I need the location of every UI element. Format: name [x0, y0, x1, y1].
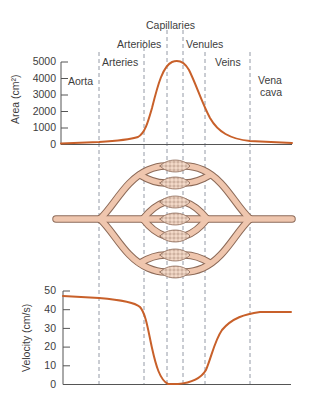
area-tick-5000: 5000 — [18, 56, 56, 67]
area-tick-3000: 3000 — [18, 89, 56, 100]
region-label-arteries: Arteries — [102, 57, 138, 69]
area-axis-label: Area (cm²) — [9, 74, 21, 124]
velocity-tick-50: 50 — [18, 285, 56, 296]
capillary-bed — [160, 160, 190, 172]
capillary-bed — [160, 266, 190, 278]
capillary-bed — [160, 249, 190, 261]
region-label-venules: Venules — [186, 39, 223, 51]
region-label-vena-line2: cava — [260, 87, 282, 99]
area-tick-2000: 2000 — [18, 106, 56, 117]
region-label-arterioles: Arterioles — [117, 39, 161, 51]
area-tick-1000: 1000 — [18, 122, 56, 133]
capillary-beds — [160, 160, 190, 278]
velocity-tick-0: 0 — [18, 379, 56, 390]
region-label-veins: Veins — [215, 57, 241, 69]
velocity-chart-axes — [63, 291, 291, 385]
vessel-diagram — [56, 160, 292, 278]
velocity-axis-label: Velocity (cm/s) — [20, 296, 32, 372]
area-tick-4000: 4000 — [18, 73, 56, 84]
capillary-bed — [160, 213, 190, 225]
capillary-bed — [160, 196, 190, 208]
region-label-vena-line1: Vena — [258, 75, 282, 87]
capillary-bed — [160, 230, 190, 242]
region-label-capillaries: Capillaries — [146, 20, 195, 32]
region-label-aorta: Aorta — [68, 76, 93, 88]
area-tick-0: 0 — [18, 139, 56, 150]
velocity-curve — [63, 296, 291, 384]
capillary-bed — [160, 177, 190, 189]
